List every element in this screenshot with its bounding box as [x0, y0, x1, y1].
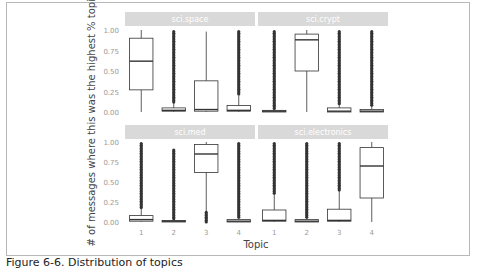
y-axis-title: # of messages where this was the highest… [86, 0, 97, 246]
outlier-point [172, 217, 175, 220]
y-tick-label: 0.25 [103, 89, 119, 97]
outlier-point [338, 102, 341, 105]
x-axis-title: Topic [242, 239, 268, 250]
facet-panel-sci-electronics: sci.electronics1234 [258, 125, 388, 237]
figure-caption: Figure 6-6. Distribution of topics [6, 256, 183, 268]
y-tick-label: 0.50 [103, 179, 119, 187]
y-tick-label: 0.75 [103, 159, 119, 167]
x-tick-label: 4 [237, 229, 242, 237]
box-iqr [328, 209, 351, 221]
outlier-point [237, 216, 240, 219]
x-tick-label: 2 [172, 229, 176, 237]
box-topic-2 [295, 30, 318, 112]
y-tick-label: 0.50 [103, 68, 119, 76]
box-topic-1 [130, 142, 153, 222]
y-tick-label: 1.00 [103, 139, 119, 147]
facet-panels: sci.space0.000.250.500.751.00sci.cryptsc… [103, 12, 388, 237]
outlier-point [140, 206, 143, 209]
x-tick-label: 1 [272, 229, 276, 237]
facet-strip-label: sci.space [172, 15, 209, 24]
y-tick-label: 0.25 [103, 199, 119, 207]
outlier-point [338, 188, 341, 191]
outlier-point [205, 220, 208, 223]
box-topic-2 [295, 142, 318, 222]
faceted-boxplot-chart: # of messages where this was the highest… [0, 0, 477, 268]
facet-panel-sci-crypt: sci.crypt [258, 12, 388, 112]
box-topic-1 [130, 30, 153, 112]
x-tick-label: 2 [305, 229, 309, 237]
facet-strip-label: sci.electronics [295, 128, 352, 137]
box-topic-1 [263, 142, 286, 222]
box-topic-2 [162, 148, 185, 222]
box-topic-4 [360, 142, 383, 222]
facet-strip-label: sci.med [174, 128, 205, 137]
y-tick-label: 0.00 [103, 109, 119, 117]
x-tick-label: 4 [370, 229, 375, 237]
outlier-point [237, 92, 240, 95]
box-iqr [130, 216, 153, 222]
y-tick-label: 0.00 [103, 219, 119, 227]
x-tick-label: 3 [204, 229, 208, 237]
box-topic-3 [328, 30, 351, 112]
box-topic-4 [360, 30, 383, 112]
x-tick-label: 1 [139, 229, 143, 237]
box-iqr [195, 81, 218, 111]
box-iqr [263, 210, 286, 221]
facet-panel-sci-space: sci.space0.000.250.500.751.00 [103, 12, 255, 117]
box-iqr [360, 148, 383, 198]
box-topic-1 [263, 30, 286, 112]
outlier-point [273, 192, 276, 195]
outlier-point [172, 100, 175, 103]
y-tick-label: 1.00 [103, 27, 119, 35]
box-iqr [195, 144, 218, 172]
facet-panel-sci-med: sci.med0.000.250.500.751.001234 [103, 125, 255, 237]
box-iqr [130, 38, 153, 90]
outlier-point [305, 216, 308, 219]
x-tick-label: 3 [337, 229, 341, 237]
box-topic-3 [328, 142, 351, 222]
box-topic-3 [195, 142, 218, 224]
box-topic-3 [195, 32, 218, 112]
box-topic-2 [162, 30, 185, 112]
outlier-point [273, 107, 276, 110]
box-topic-4 [227, 142, 250, 222]
box-topic-4 [227, 30, 250, 112]
outlier-point [370, 104, 373, 107]
y-tick-label: 0.75 [103, 48, 119, 56]
facet-strip-label: sci.crypt [306, 15, 340, 24]
